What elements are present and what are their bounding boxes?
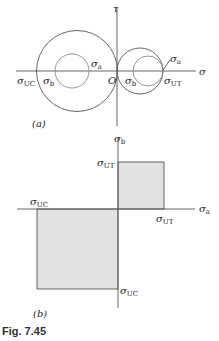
sigma-axis-label: σ	[199, 66, 207, 77]
compression-square	[37, 209, 118, 289]
tau-axis-label: τ	[113, 3, 119, 14]
sigma-b-axis-label: σb	[114, 133, 126, 146]
panel-a-labels: τ σ O σUC σb σa σb σUT σa (a)	[17, 3, 207, 129]
sigma-ut-horizontal-label: σUT	[156, 213, 174, 226]
figure-canvas: τ σ O σUC σb σa σb σUT σa (a) σb σa σUT …	[0, 0, 219, 341]
sigma-b-left-label: σb	[43, 75, 55, 88]
sigma-ut-vertical-label: σUT	[97, 157, 115, 170]
sigma-a-axis-label: σa	[199, 203, 210, 216]
sigma-a-right-label: σa	[170, 53, 181, 66]
sigma-uc-horizontal-label: σUC	[30, 196, 48, 209]
sigma-ut-label: σUT	[164, 75, 182, 88]
origin-label: O	[108, 75, 116, 86]
tension-square	[118, 162, 164, 209]
sigma-uc-label: σUC	[17, 75, 35, 88]
sigma-b-right-label: σb	[125, 75, 137, 88]
figure-caption: Fig. 7.45	[2, 325, 46, 337]
panel-a-label: (a)	[32, 118, 46, 129]
sigma-a-left-label: σa	[91, 58, 102, 71]
panel-a	[16, 8, 196, 126]
panel-b-label: (b)	[33, 308, 47, 319]
sigma-uc-vertical-label: σUC	[120, 285, 138, 298]
sigma-a-pointer	[163, 60, 170, 70]
